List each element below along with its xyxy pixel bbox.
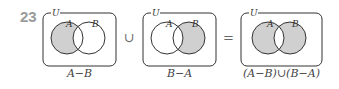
caption-symmetric-difference: (A−B)∪(B−A): [231, 67, 332, 80]
u-label: U: [52, 8, 60, 18]
svg-text:A: A: [165, 19, 173, 29]
venn-symmetric-difference: U A B: [241, 8, 322, 66]
svg-text:B: B: [291, 19, 299, 29]
b-label: B: [91, 19, 99, 29]
caption-b-minus-a: B−A: [143, 67, 216, 80]
venn-b-minus-a: U A B: [143, 8, 216, 66]
union-operator: ∪: [124, 30, 135, 45]
svg-text:A: A: [266, 19, 274, 29]
equals-operator: =: [223, 30, 234, 45]
svg-text:U: U: [152, 8, 160, 18]
venn-a-minus-b: U A B: [43, 8, 116, 66]
caption-a-minus-b: A−B: [43, 67, 116, 80]
a-label: A: [65, 19, 73, 29]
svg-text:U: U: [250, 8, 258, 18]
svg-text:B: B: [191, 19, 199, 29]
